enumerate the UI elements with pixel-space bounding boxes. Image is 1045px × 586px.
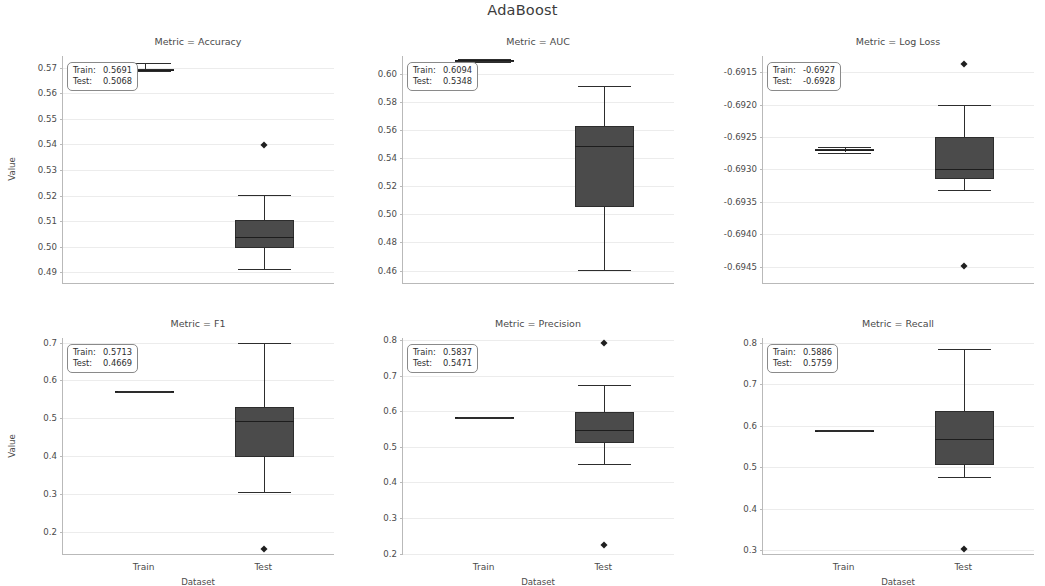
whisker-lower: [964, 465, 965, 477]
subplot-recall: Metric = Recall0.30.40.50.60.70.8Train:0…: [0, 0, 1045, 586]
whisker-cap-lower: [938, 477, 991, 478]
summary-annotation: Train:0.5837Test:0.5471: [407, 344, 478, 373]
x-tick-label-train: Train: [833, 562, 855, 572]
summary-annotation: Train:-0.6927Test:-0.6928: [767, 62, 841, 91]
y-tick-label: 0.4: [701, 504, 757, 514]
annotation-train-value: -0.6927: [803, 65, 835, 76]
annotation-train-value: 0.5691: [103, 65, 132, 76]
y-tick-mark: [760, 467, 763, 468]
annotation-test-value: -0.6928: [803, 76, 835, 87]
summary-annotation: Train:0.5713Test:0.4669: [67, 344, 138, 373]
gridline: [763, 384, 1034, 385]
y-tick-mark: [760, 550, 763, 551]
annotation-train-label: Train:: [73, 347, 103, 358]
annotation-test-value: 0.4669: [103, 358, 132, 369]
annotation-test-label: Test:: [73, 358, 103, 369]
annotation-test-value: 0.5068: [103, 76, 132, 87]
gridline: [763, 550, 1034, 551]
x-tick-label-test: Test: [954, 562, 972, 572]
annotation-train-value: 0.5886: [803, 347, 832, 358]
x-axis-label: Dataset: [762, 577, 1034, 586]
outlier-marker: [961, 545, 968, 552]
annotation-test-value: 0.5471: [443, 358, 472, 369]
summary-annotation: Train:0.5691Test:0.5068: [67, 62, 138, 91]
gridline: [763, 509, 1034, 510]
annotation-train-label: Train:: [413, 65, 443, 76]
annotation-train-label: Train:: [413, 347, 443, 358]
median-line: [935, 439, 993, 440]
y-tick-label: 0.8: [701, 338, 757, 348]
whisker-cap-upper: [938, 349, 991, 350]
y-tick-mark: [760, 509, 763, 510]
y-tick-mark: [760, 426, 763, 427]
gridline: [763, 467, 1034, 468]
y-tick-label: 0.6: [701, 421, 757, 431]
annotation-train-label: Train:: [773, 347, 803, 358]
annotation-train-label: Train:: [773, 65, 803, 76]
y-tick-label: 0.3: [701, 545, 757, 555]
annotation-test-label: Test:: [413, 76, 443, 87]
summary-annotation: Train:0.6094Test:0.5348: [407, 62, 478, 91]
y-tick-mark: [760, 384, 763, 385]
figure-canvas: AdaBoost Metric = Accuracy0.490.500.510.…: [0, 0, 1045, 586]
annotation-train-value: 0.5713: [103, 347, 132, 358]
annotation-train-value: 0.6094: [443, 65, 472, 76]
annotation-test-label: Test:: [773, 358, 803, 369]
whisker-cap-lower: [818, 431, 871, 432]
annotation-test-label: Test:: [773, 76, 803, 87]
whisker-upper: [964, 349, 965, 411]
y-tick-label: 0.7: [701, 379, 757, 389]
y-tick-label: 0.5: [701, 462, 757, 472]
annotation-test-label: Test:: [73, 76, 103, 87]
annotation-train-label: Train:: [73, 65, 103, 76]
annotation-train-value: 0.5837: [443, 347, 472, 358]
annotation-test-value: 0.5759: [803, 358, 832, 369]
summary-annotation: Train:0.5886Test:0.5759: [767, 344, 838, 373]
annotation-test-label: Test:: [413, 358, 443, 369]
annotation-test-value: 0.5348: [443, 76, 472, 87]
subplot-title: Metric = Recall: [762, 318, 1034, 329]
y-tick-mark: [760, 343, 763, 344]
